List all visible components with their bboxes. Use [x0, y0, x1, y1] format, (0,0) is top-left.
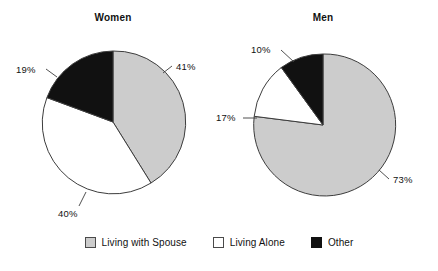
- pie-men-label-living-alone: 17%: [216, 112, 236, 123]
- leader-line-women-41: [163, 66, 172, 73]
- chart-legend: Living with Spouse Living Alone Other: [0, 237, 438, 248]
- leader-line-men-10: [281, 50, 294, 62]
- pie-chart-figure: Women Men 41%: [0, 0, 438, 271]
- pie-women-label-living-with-spouse: 41%: [176, 61, 196, 72]
- pie-men-label-living-with-spouse: 73%: [393, 174, 413, 185]
- leader-line-men-73: [379, 170, 389, 179]
- leader-line-women-40: [79, 192, 86, 206]
- pie-men: [243, 50, 396, 196]
- legend-item-other: Other: [311, 237, 354, 248]
- legend-swatch-living-with-spouse: [85, 237, 96, 248]
- legend-label-other: Other: [328, 237, 354, 248]
- pie-women-label-living-alone: 40%: [58, 208, 78, 219]
- pie-women-label-other: 19%: [16, 64, 36, 75]
- pie-women: [42, 51, 185, 206]
- legend-item-living-with-spouse: Living with Spouse: [85, 237, 187, 248]
- legend-label-living-with-spouse: Living with Spouse: [102, 237, 187, 248]
- legend-label-living-alone: Living Alone: [230, 237, 285, 248]
- legend-swatch-living-alone: [213, 237, 224, 248]
- pie-men-label-other: 10%: [251, 44, 271, 55]
- pies-canvas: [0, 0, 438, 271]
- leader-line-women-19: [46, 69, 57, 77]
- legend-item-living-alone: Living Alone: [213, 237, 285, 248]
- legend-swatch-other: [311, 237, 322, 248]
